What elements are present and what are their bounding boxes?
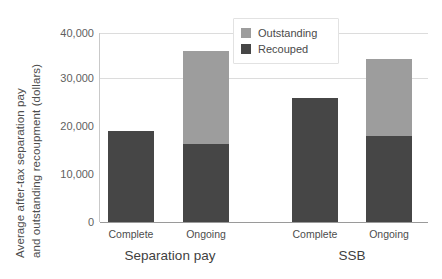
bar-ssb-complete xyxy=(292,98,338,222)
y-tick-0: 0 xyxy=(40,216,94,228)
legend: Outstanding Recouped xyxy=(233,18,339,64)
legend-swatch-icon-recouped xyxy=(241,44,251,54)
bar-separation-pay-ongoing xyxy=(183,51,229,222)
y-axis-title-line-1: Average after-tax separation pay xyxy=(14,88,26,258)
x-axis-line xyxy=(100,222,428,223)
y-axis-tick-labels: 40,000 30,000 20,000 10,000 0 xyxy=(38,0,94,279)
y-tick-20000: 20,000 xyxy=(40,120,94,132)
bar-segment-outstanding xyxy=(183,51,229,144)
bar-segment-recouped xyxy=(108,131,154,222)
legend-item-outstanding[interactable]: Outstanding xyxy=(241,25,330,41)
bar-chart: Average after-tax separation pay and out… xyxy=(0,0,442,279)
legend-label-outstanding: Outstanding xyxy=(258,27,317,39)
legend-label-recouped: Recouped xyxy=(258,43,308,55)
x-tick-ssb-complete: Complete xyxy=(293,228,338,240)
x-tick-separation-pay-complete: Complete xyxy=(109,228,154,240)
y-tick-40000: 40,000 xyxy=(40,27,94,39)
y-tick-30000: 30,000 xyxy=(40,72,94,84)
x-tick-separation-pay-ongoing: Ongoing xyxy=(186,228,226,240)
bar-segment-recouped xyxy=(183,144,229,222)
bar-segment-outstanding xyxy=(366,59,412,136)
bar-separation-pay-complete xyxy=(108,131,154,222)
x-group-label-separation-pay: Separation pay xyxy=(125,248,216,263)
x-group-label-ssb: SSB xyxy=(338,248,365,263)
legend-swatch-icon-outstanding xyxy=(241,28,251,38)
legend-item-recouped[interactable]: Recouped xyxy=(241,41,330,57)
bar-segment-recouped xyxy=(292,98,338,222)
bar-segment-recouped xyxy=(366,136,412,222)
x-tick-ssb-ongoing: Ongoing xyxy=(369,228,409,240)
bar-ssb-ongoing xyxy=(366,59,412,222)
y-tick-10000: 10,000 xyxy=(40,168,94,180)
